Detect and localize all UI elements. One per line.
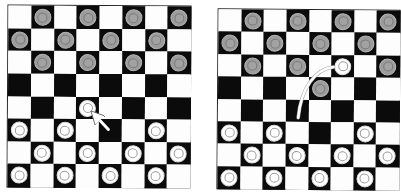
board-square — [8, 96, 31, 119]
board-square — [76, 51, 99, 74]
board-square — [8, 119, 31, 142]
board-square — [167, 97, 190, 120]
board-square — [8, 28, 31, 51]
board-square — [263, 77, 286, 100]
board-square — [308, 77, 331, 100]
board-square — [286, 32, 309, 55]
board-square — [144, 165, 167, 188]
board-square — [76, 96, 99, 119]
board-square — [99, 164, 122, 187]
board-square — [218, 121, 241, 144]
board-square — [76, 164, 99, 187]
board-square — [240, 121, 263, 144]
board-square — [121, 164, 144, 187]
board-square — [286, 99, 309, 122]
dark-checker-piece — [380, 58, 397, 75]
board-square — [99, 51, 122, 74]
board-square — [241, 32, 264, 55]
board-square — [308, 167, 331, 190]
board-square — [76, 74, 99, 97]
board-square — [8, 6, 31, 29]
light-checker-piece — [79, 145, 96, 162]
light-checker-piece — [356, 170, 373, 187]
dark-checker-piece — [11, 31, 28, 48]
board-square — [240, 166, 263, 189]
board-square — [285, 144, 308, 167]
board-square — [144, 142, 167, 165]
board-square — [264, 32, 287, 55]
board-square — [309, 10, 332, 33]
light-checker-piece — [288, 147, 305, 164]
board-square — [31, 119, 54, 142]
board-square — [76, 29, 99, 52]
light-checker-piece — [34, 144, 51, 161]
board-square — [240, 144, 263, 167]
board-square — [308, 100, 331, 123]
board-square — [286, 122, 309, 145]
board-square — [53, 96, 76, 119]
board-square — [354, 33, 377, 56]
dark-checker-piece — [312, 35, 329, 52]
light-checker-piece — [56, 167, 73, 184]
board-square — [263, 54, 286, 77]
board-square — [331, 77, 354, 100]
board-square — [331, 122, 354, 145]
board-square — [76, 142, 99, 165]
board-square — [122, 74, 145, 97]
board-square — [167, 52, 190, 75]
board-square — [332, 10, 355, 33]
board-square — [122, 6, 145, 29]
checkers-board-left — [7, 5, 192, 189]
board-square — [53, 74, 76, 97]
board-square — [31, 96, 54, 119]
dark-checker-piece — [244, 57, 261, 74]
board-square — [241, 54, 264, 77]
board-square — [145, 6, 168, 29]
board-square — [241, 10, 264, 33]
dark-checker-piece — [125, 9, 142, 26]
board-square — [167, 119, 190, 142]
board-square — [99, 74, 122, 97]
board-square — [145, 29, 168, 52]
dark-checker-piece — [34, 54, 51, 71]
dark-checker-piece — [80, 54, 97, 71]
board-square — [30, 141, 53, 164]
board-square — [77, 6, 100, 29]
light-checker-piece — [102, 167, 119, 184]
board-square — [263, 144, 286, 167]
board-square — [144, 97, 167, 120]
board-square — [286, 77, 309, 100]
board-square — [54, 51, 77, 74]
board-square — [8, 51, 31, 74]
board-square — [377, 55, 400, 78]
board-square — [31, 74, 54, 97]
board-square — [53, 119, 76, 142]
light-checker-piece — [56, 122, 73, 139]
board-square — [31, 51, 54, 74]
light-checker-piece — [147, 168, 164, 185]
board-square — [377, 10, 400, 33]
board-square — [167, 74, 190, 97]
board-square — [218, 32, 241, 55]
board-square — [331, 55, 354, 78]
board-square — [354, 55, 377, 78]
board-square — [76, 119, 99, 142]
board-square — [217, 166, 240, 189]
board-square — [309, 55, 332, 78]
board-square — [167, 142, 190, 165]
board-square — [263, 166, 286, 189]
dark-checker-piece — [125, 54, 142, 71]
board-square — [263, 122, 286, 145]
board-square — [8, 164, 31, 187]
board-square — [331, 33, 354, 56]
dark-checker-piece — [57, 31, 74, 48]
dark-checker-piece — [289, 58, 306, 75]
dark-checker-piece — [148, 32, 165, 49]
board-square — [376, 78, 399, 101]
board-square — [167, 29, 190, 52]
board-square — [330, 167, 353, 190]
board-square — [218, 144, 241, 167]
board-square — [376, 100, 399, 123]
board-square — [122, 51, 145, 74]
board-square — [376, 167, 399, 190]
